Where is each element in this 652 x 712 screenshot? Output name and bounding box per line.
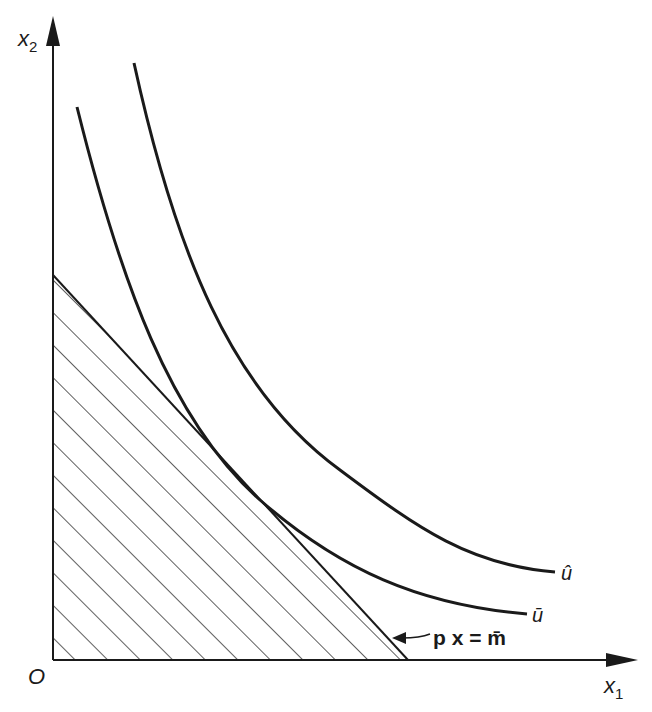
y-axis-arrow-icon xyxy=(46,16,60,46)
origin-label: O xyxy=(28,664,45,689)
y-axis-label: x2 xyxy=(17,26,37,55)
x-axis-label: x1 xyxy=(603,673,623,702)
x-axis-arrow-icon xyxy=(606,653,638,667)
curve-label-u-bar: ū xyxy=(532,604,543,626)
pointer-arrow-icon xyxy=(392,632,406,644)
budget-line-label: p x = m̄ xyxy=(433,626,506,649)
curve-label-u-hat: û xyxy=(561,562,572,584)
diagram-canvas: x2 x1 O û ū p x = m̄ xyxy=(0,0,652,712)
budget-label-pointer xyxy=(392,632,430,644)
